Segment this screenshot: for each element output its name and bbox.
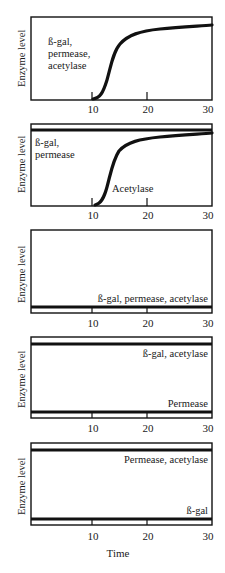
p5-top-label: Permease, acetylase [124,454,208,465]
y-axis-label-1: Enzyme level [16,29,27,87]
p1-label-line3: acetylase [48,60,87,71]
p2-label-line1: ß-gal, [35,137,59,148]
x-tick-label-10: 10 [88,103,100,115]
curve-acetylase [95,133,212,205]
x-tick-label-30: 30 [203,103,215,115]
x-tick-label-20: 20 [143,422,155,434]
y-axis-label-4: Enzyme level [16,350,27,408]
x-tick-label-30: 30 [203,422,215,434]
x-tick-label-20: 20 [143,317,155,329]
panel-4: ß-gal, acetylase Permease Enzyme level 1… [16,337,214,434]
x-tick-label-20: 20 [143,530,155,542]
p1-label-line2: permease, [48,48,90,59]
x-tick-label-10: 10 [88,209,100,221]
x-tick-label-20: 20 [143,209,155,221]
p4-top-label: ß-gal, acetylase [143,348,209,359]
x-tick-label-30: 30 [203,317,215,329]
p1-label-line1: ß-gal, [48,36,72,47]
y-axis-label-2: Enzyme level [16,135,27,193]
p2-label-line2: permease [35,149,75,160]
x-tick-label-20: 20 [143,103,155,115]
panel-1: ß-gal, permease, acetylase Enzyme level … [16,17,214,115]
curve-all-enzymes [93,25,212,99]
x-tick-label-30: 30 [203,209,215,221]
p4-bottom-label: Permease [168,398,209,409]
x-tick-label-10: 10 [88,530,100,542]
panel-3: ß-gal, permease, acetylase Enzyme level … [16,230,214,329]
y-axis-label-3: Enzyme level [16,245,27,303]
x-tick-label-10: 10 [88,317,100,329]
x-axis-label: Time [107,547,130,559]
operon-enzyme-charts: ß-gal, permease, acetylase Enzyme level … [0,0,225,573]
p2-acetylase-label: Acetylase [112,183,154,194]
p5-bottom-label: ß-gal [186,505,208,516]
p3-label: ß-gal, permease, acetylase [98,293,209,304]
panel-2: ß-gal, permease Acetylase Enzyme level 1… [16,124,214,221]
x-tick-label-30: 30 [203,530,215,542]
y-axis-label-5: Enzyme level [16,457,27,515]
x-tick-label-10: 10 [88,422,100,434]
panel-5: Permease, acetylase ß-gal Enzyme level 1… [16,443,214,559]
